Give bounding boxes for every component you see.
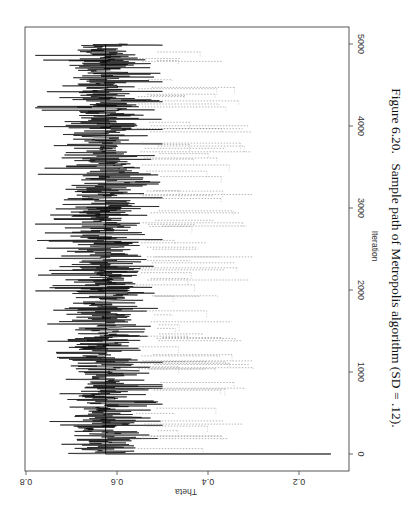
iteration-tick-label: 0 bbox=[356, 451, 366, 456]
caption-prefix: Figure 6.20. bbox=[389, 88, 404, 154]
theta-tick-label: 0.8 bbox=[20, 477, 33, 487]
iteration-tick-label: 5000 bbox=[356, 34, 366, 54]
theta-tick-label: 0.2 bbox=[293, 477, 306, 487]
iteration-tick-label: 4000 bbox=[356, 116, 366, 136]
iteration-tick-label: 1000 bbox=[356, 362, 366, 382]
iteration-axis: 010002000300040005000 bbox=[349, 34, 366, 457]
theta-axis-title: Theta bbox=[175, 487, 197, 497]
caption-text: Sample path of Metropolis algorithm (SD … bbox=[389, 163, 404, 427]
rejected-proposals bbox=[136, 52, 253, 453]
theta-tick-label: 0.4 bbox=[202, 477, 215, 487]
figure-page: 010002000300040005000 0.20.40.60.8 Itera… bbox=[0, 0, 416, 522]
theta-axis: 0.20.40.60.8 bbox=[20, 471, 306, 487]
iteration-tick-label: 2000 bbox=[356, 280, 366, 300]
figure-caption: Figure 6.20. Sample path of Metropolis a… bbox=[389, 88, 404, 427]
metropolis-sample-path-chart: 010002000300040005000 0.20.40.60.8 Itera… bbox=[0, 0, 416, 522]
theta-tick-label: 0.6 bbox=[111, 477, 124, 487]
iteration-tick-label: 3000 bbox=[356, 198, 366, 218]
iteration-axis-title: Iteration bbox=[370, 231, 380, 262]
